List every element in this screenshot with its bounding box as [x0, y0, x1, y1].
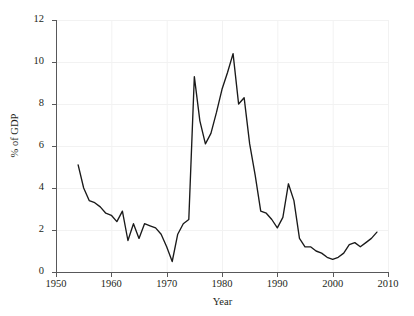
y-tick-mark	[52, 62, 56, 63]
x-tick-label: 1990	[252, 279, 302, 290]
y-tick-label: 8	[0, 98, 44, 109]
plot-area	[56, 20, 388, 272]
y-tick-mark	[52, 146, 56, 147]
y-tick-mark	[52, 188, 56, 189]
y-tick-mark	[52, 104, 56, 105]
x-tick-label: 2000	[308, 279, 358, 290]
y-tick-mark	[52, 20, 56, 21]
x-tick-mark	[56, 273, 57, 277]
x-tick-label: 1960	[86, 279, 136, 290]
x-axis-title: Year	[56, 296, 389, 307]
line-series-pct-of-gdp	[78, 54, 377, 262]
x-tick-mark	[388, 273, 389, 277]
x-tick-mark	[277, 273, 278, 277]
y-tick-label: 6	[0, 140, 44, 151]
x-tick-mark	[167, 273, 168, 277]
chart-figure: 024681012 1950196019701980199020002010 Y…	[0, 0, 414, 316]
data-series-layer	[56, 20, 388, 272]
x-tick-mark	[111, 273, 112, 277]
x-tick-label: 1970	[142, 279, 192, 290]
y-axis-line	[56, 20, 57, 273]
x-tick-mark	[333, 273, 334, 277]
y-tick-label: 2	[0, 224, 44, 235]
y-tick-label: 12	[0, 14, 44, 25]
y-tick-label: 10	[0, 56, 44, 67]
x-tick-label: 1980	[197, 279, 247, 290]
y-tick-label: 0	[0, 266, 44, 277]
x-tick-label: 1950	[31, 279, 81, 290]
y-tick-label: 4	[0, 182, 44, 193]
x-tick-label: 2010	[363, 279, 413, 290]
x-tick-mark	[222, 273, 223, 277]
y-tick-mark	[52, 230, 56, 231]
y-axis-title: % of GDP	[9, 76, 20, 196]
